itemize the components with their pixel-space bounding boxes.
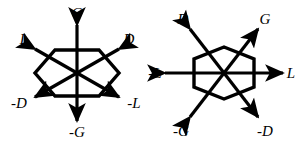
label-left-lower-left: -D xyxy=(11,95,27,111)
label-left-upper-left: L xyxy=(19,31,28,47)
left-hexagon-svg: G L D -D -L -G xyxy=(0,0,150,145)
right-hexagon-svg: D G -L L -G -D xyxy=(147,0,297,145)
label-right-lower-left: -G xyxy=(173,123,189,139)
label-left-top: G xyxy=(72,5,83,21)
label-right-upper-left: D xyxy=(177,11,189,27)
label-left-bottom: -G xyxy=(69,124,85,140)
label-left-lower-right: -L xyxy=(127,95,140,111)
label-right-right: L xyxy=(286,65,295,81)
label-right-left: -L xyxy=(148,65,161,81)
right-hexagon-panel: D G -L L -G -D xyxy=(147,0,297,145)
label-right-lower-right: -D xyxy=(257,123,273,139)
figure-root: G L D -D -L -G D G xyxy=(0,0,297,145)
left-hexagon-panel: G L D -D -L -G xyxy=(0,0,150,145)
label-left-upper-right: D xyxy=(123,31,135,47)
label-right-upper-right: G xyxy=(260,11,271,27)
